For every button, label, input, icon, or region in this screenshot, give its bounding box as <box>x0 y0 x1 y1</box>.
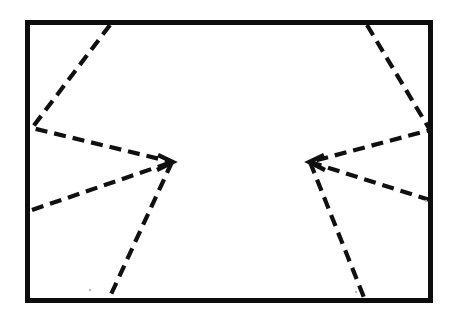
outer-rectangle-border <box>28 23 431 301</box>
figure-canvas <box>0 0 458 322</box>
line-drawing-svg <box>0 0 458 322</box>
scan-speck <box>355 291 357 293</box>
scan-speck <box>89 289 91 291</box>
scan-speck <box>425 200 427 202</box>
